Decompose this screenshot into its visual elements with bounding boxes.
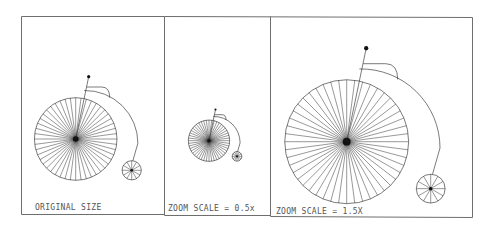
small-wheel-hub xyxy=(130,169,133,172)
handlebar-grip xyxy=(87,75,90,78)
panel-original-frame xyxy=(22,17,165,215)
panel-frames xyxy=(22,17,473,218)
handlebar-stem xyxy=(347,48,367,141)
small-wheel xyxy=(416,174,445,203)
large-wheel-spoke xyxy=(303,142,347,186)
large-wheel-spoke xyxy=(287,142,347,158)
large-wheel-spoke xyxy=(347,142,407,158)
large-wheel-spoke xyxy=(347,88,378,142)
small-wheel-hub xyxy=(236,156,238,158)
large-wheel-spoke xyxy=(293,111,347,142)
large-wheel-spoke xyxy=(347,126,407,142)
bicycle-half-scale xyxy=(188,109,241,162)
handlebar-grip xyxy=(364,46,368,50)
large-wheel-spoke xyxy=(76,139,116,150)
bicycle-original xyxy=(34,75,141,180)
top-border xyxy=(165,17,473,18)
large-wheel-spoke xyxy=(316,88,347,142)
large-wheel-spoke xyxy=(65,99,76,139)
large-wheel-spoke xyxy=(76,139,87,179)
large-wheel-spoke xyxy=(287,126,347,142)
caption-one-and-half: ZOOM SCALE = 1.5X xyxy=(276,207,363,216)
handlebar-grip xyxy=(214,109,216,111)
large-wheel-spoke xyxy=(36,128,76,139)
large-wheel-spoke xyxy=(347,111,401,142)
large-wheel-spoke xyxy=(347,82,363,142)
handlebar-stem xyxy=(209,110,216,141)
caption-half: ZOOM SCALE = 0.5x xyxy=(168,204,255,213)
large-wheel-spoke xyxy=(76,99,87,139)
large-wheel-spoke xyxy=(347,142,363,202)
small-wheel xyxy=(122,161,141,180)
large-wheel-spoke xyxy=(347,142,391,186)
large-wheel-spoke xyxy=(36,139,76,150)
large-wheel-hub xyxy=(343,138,351,146)
zoom-scale-diagram: ORIGINAL SIZE ZOOM SCALE = 0.5x ZOOM SCA… xyxy=(0,0,493,231)
large-wheel-spoke xyxy=(331,82,347,142)
large-wheel-spoke xyxy=(316,142,347,196)
large-wheel-spoke xyxy=(65,139,76,179)
panel-one-and-half-frame xyxy=(271,18,473,218)
large-wheel-spoke xyxy=(303,98,347,142)
small-wheel xyxy=(232,152,242,162)
large-wheel-spoke xyxy=(331,142,347,202)
large-wheel-spoke xyxy=(76,128,116,139)
large-wheel-spoke xyxy=(347,142,378,196)
caption-original: ORIGINAL SIZE xyxy=(35,203,102,212)
small-wheel-hub xyxy=(429,187,433,191)
large-wheel-spoke xyxy=(293,142,347,173)
bicycle-one-and-half-scale xyxy=(285,46,445,204)
large-wheel-spoke xyxy=(347,142,401,173)
handlebar-stem xyxy=(76,77,89,139)
large-wheel-spoke xyxy=(347,98,391,142)
